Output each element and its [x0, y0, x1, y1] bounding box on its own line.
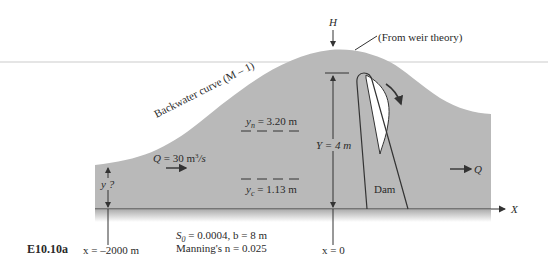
weir-leader	[355, 36, 377, 50]
head-label: H	[329, 16, 337, 28]
x-axis-label: X	[511, 203, 518, 215]
outflow-label: Q	[474, 163, 482, 175]
manning-label: Manning's n = 0.025	[176, 242, 267, 254]
x-upstream-label: x = –2000 m	[83, 244, 139, 256]
bed-shadow	[95, 210, 491, 222]
upstream-depth-label: y ?	[101, 178, 114, 190]
x-dam-label: x = 0	[322, 244, 345, 256]
slope-width-label: S0 = 0.0004, b = 8 m	[176, 229, 267, 243]
dam-backwater-figure: H (From weir theory) Backwater curve (M …	[0, 0, 548, 269]
inflow-label: Q = 30 m3/s	[153, 152, 206, 166]
dam-height-label: Y = 4 m	[316, 139, 351, 151]
normal-depth-label: yn = 3.20 m	[246, 115, 297, 129]
diagram-canvas	[0, 0, 548, 269]
figure-id: E10.10a	[27, 243, 68, 255]
critical-depth-label: yc = 1.13 m	[246, 183, 297, 197]
dam-label: Dam	[374, 183, 395, 195]
weir-theory-label: (From weir theory)	[378, 31, 462, 43]
